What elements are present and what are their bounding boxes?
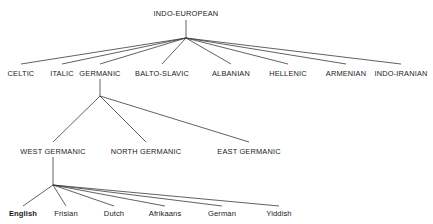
node-label-english: English — [9, 209, 37, 218]
edge-germanic-to-east-germanic — [100, 96, 249, 142]
edge-west-germanic-to-english — [23, 185, 53, 206]
node-label-armenian: ARMENIAN — [326, 69, 366, 78]
edge-root-to-hellenic — [186, 38, 288, 64]
node-label-frisian: Frisian — [54, 209, 78, 218]
node-label-german: German — [208, 209, 236, 218]
edge-west-germanic-to-yiddish — [53, 185, 279, 206]
edge-root-to-indo-iranian — [186, 38, 401, 64]
node-label-west-germanic: WEST GERMANIC — [20, 147, 86, 156]
node-label-indo-iranian: INDO-IRANIAN — [374, 69, 427, 78]
language-family-tree-figure: INDO-EUROPEANCELTICITALICGERMANICBALTO-S… — [0, 0, 433, 224]
node-label-celtic: CELTIC — [8, 69, 35, 78]
edge-germanic-to-west-germanic — [53, 96, 100, 142]
node-label-albanian: ALBANIAN — [212, 69, 250, 78]
node-label-east-germanic: EAST GERMANIC — [217, 147, 281, 156]
node-label-afrikaans: Afrikaans — [149, 209, 182, 218]
node-label-dutch: Dutch — [104, 209, 124, 218]
node-label-italic: ITALIC — [50, 69, 74, 78]
node-label-hellenic: HELLENIC — [269, 69, 307, 78]
edge-root-to-italic — [62, 38, 186, 64]
edge-root-to-armenian — [186, 38, 346, 64]
tree-diagram-canvas: INDO-EUROPEANCELTICITALICGERMANICBALTO-S… — [0, 0, 433, 224]
node-label-north-germanic: NORTH GERMANIC — [111, 147, 182, 156]
node-label-indo-european: INDO-EUROPEAN — [154, 9, 219, 18]
node-label-germanic: GERMANIC — [79, 69, 121, 78]
edge-west-germanic-to-afrikaans — [53, 185, 165, 206]
edge-root-to-celtic — [21, 38, 186, 64]
tree-edges — [21, 20, 401, 206]
node-label-balto-slavic: BALTO-SLAVIC — [135, 69, 189, 78]
edge-root-to-germanic — [100, 38, 186, 64]
edge-west-germanic-to-frisian — [53, 185, 66, 206]
edge-west-germanic-to-german — [53, 185, 222, 206]
node-label-yiddish: Yiddish — [266, 209, 291, 218]
